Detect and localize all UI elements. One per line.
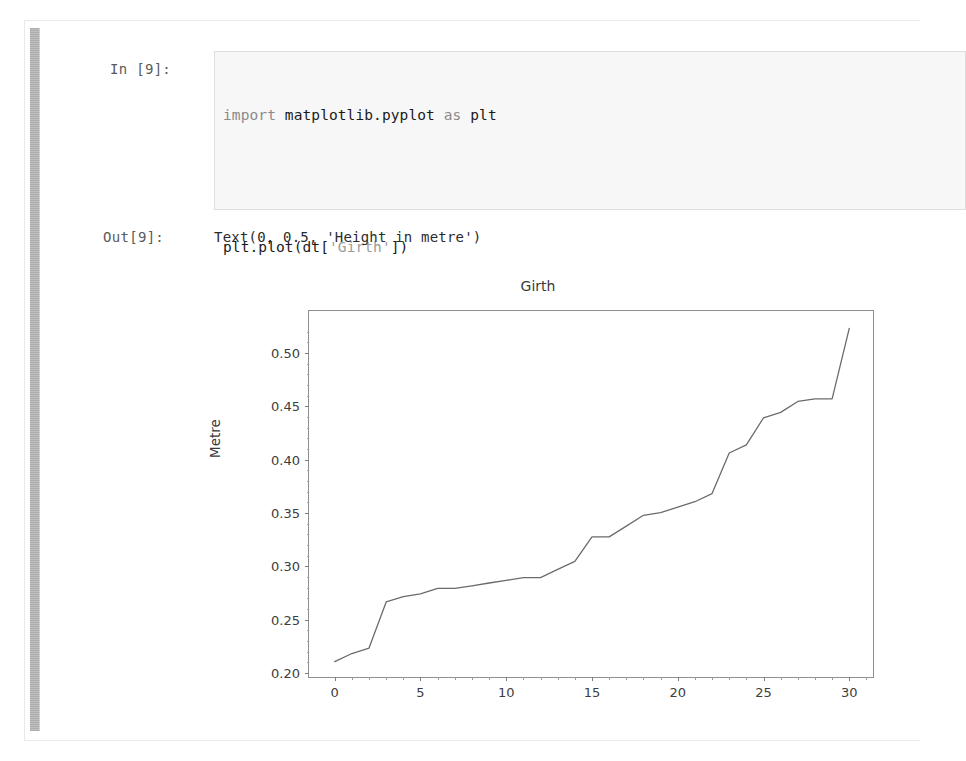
y-tick-label: 0.20 (271, 666, 300, 681)
y-tick-label: 0.40 (271, 452, 300, 467)
y-tick-minor (307, 332, 310, 333)
x-tick-minor (403, 677, 404, 680)
x-tick-mark (420, 677, 421, 681)
y-tick-minor (307, 492, 310, 493)
y-tick-minor (307, 396, 310, 397)
x-tick-minor (523, 677, 524, 680)
y-tick-label: 0.25 (271, 612, 300, 627)
x-tick-minor (386, 677, 387, 680)
x-tick-minor (815, 677, 816, 680)
y-tick-minor (307, 385, 310, 386)
y-tick-mark (305, 353, 309, 354)
x-tick-minor (558, 677, 559, 680)
x-tick-minor (489, 677, 490, 680)
x-tick-minor (729, 677, 730, 680)
x-tick-minor (695, 677, 696, 680)
code-alias-name: plt (461, 107, 496, 123)
code-keyword-as: as (444, 107, 462, 123)
x-tick-label: 30 (841, 685, 858, 700)
y-tick-mark (305, 513, 309, 514)
x-tick-minor (781, 677, 782, 680)
y-tick-mark (305, 406, 309, 407)
x-tick-label: 5 (416, 685, 424, 700)
x-tick-label: 25 (755, 685, 772, 700)
y-tick-minor (307, 556, 310, 557)
x-tick-mark (506, 677, 507, 681)
y-tick-minor (307, 449, 310, 450)
chart-title: Girth (193, 278, 883, 294)
y-tick-label: 0.35 (271, 506, 300, 521)
y-tick-label: 0.30 (271, 559, 300, 574)
chart-ylabel: Metre (207, 419, 223, 458)
y-tick-label: 0.45 (271, 399, 300, 414)
y-tick-minor (307, 428, 310, 429)
x-tick-minor (866, 677, 867, 680)
y-tick-minor (307, 534, 310, 535)
y-tick-minor (307, 417, 310, 418)
x-tick-minor (661, 677, 662, 680)
output-prompt-label: Out[9]: (103, 229, 164, 245)
code-keyword-import: import (223, 107, 276, 123)
y-tick-minor (307, 630, 310, 631)
x-tick-minor (609, 677, 610, 680)
x-tick-minor (575, 677, 576, 680)
x-tick-minor (643, 677, 644, 680)
matplotlib-figure: Girth Metre 0.200.250.300.350.400.450.50… (210, 272, 900, 712)
y-tick-minor (307, 577, 310, 578)
y-tick-mark (305, 620, 309, 621)
y-tick-minor (307, 342, 310, 343)
x-tick-minor (712, 677, 713, 680)
code-line-blank (223, 170, 965, 192)
chart-line-series (335, 328, 850, 661)
y-tick-minor (307, 502, 310, 503)
y-tick-minor (307, 374, 310, 375)
x-tick-minor (746, 677, 747, 680)
y-tick-minor (307, 588, 310, 589)
y-tick-minor (307, 641, 310, 642)
x-tick-minor (369, 677, 370, 680)
code-editor[interactable]: import matplotlib.pyplot as plt plt.plot… (214, 51, 966, 210)
x-tick-minor (352, 677, 353, 680)
x-tick-minor (626, 677, 627, 680)
x-tick-minor (438, 677, 439, 680)
x-tick-mark (764, 677, 765, 681)
y-tick-minor (307, 481, 310, 482)
x-tick-mark (849, 677, 850, 681)
y-tick-minor (307, 470, 310, 471)
input-cell-row: In [9]: import matplotlib.pyplot as plt … (48, 51, 918, 211)
y-tick-minor (307, 545, 310, 546)
output-repr-text: Text(0, 0.5, 'Height in metre') (214, 229, 482, 245)
y-tick-mark (305, 673, 309, 674)
x-tick-label: 20 (669, 685, 686, 700)
x-tick-mark (335, 677, 336, 681)
y-tick-minor (307, 364, 310, 365)
y-tick-minor (307, 662, 310, 663)
x-tick-minor (455, 677, 456, 680)
x-tick-label: 15 (584, 685, 601, 700)
y-tick-minor (307, 652, 310, 653)
chart-plot-area (309, 311, 875, 679)
code-line-1: import matplotlib.pyplot as plt (223, 104, 965, 126)
y-tick-minor (307, 524, 310, 525)
cell-selection-gutter[interactable] (30, 28, 40, 731)
y-tick-minor (307, 438, 310, 439)
x-tick-minor (472, 677, 473, 680)
x-tick-label: 10 (498, 685, 515, 700)
x-tick-minor (798, 677, 799, 680)
y-tick-mark (305, 460, 309, 461)
x-tick-minor (832, 677, 833, 680)
y-tick-minor (307, 598, 310, 599)
y-tick-minor (307, 609, 310, 610)
output-cell-row: Out[9]: Text(0, 0.5, 'Height in metre') (48, 229, 918, 253)
x-tick-mark (592, 677, 593, 681)
code-module-name: matplotlib.pyplot (276, 107, 444, 123)
x-tick-label: 0 (331, 685, 339, 700)
chart-axes: 0.200.250.300.350.400.450.50051015202530 (308, 310, 874, 678)
y-tick-mark (305, 566, 309, 567)
x-tick-minor (541, 677, 542, 680)
y-tick-label: 0.50 (271, 346, 300, 361)
x-tick-mark (678, 677, 679, 681)
